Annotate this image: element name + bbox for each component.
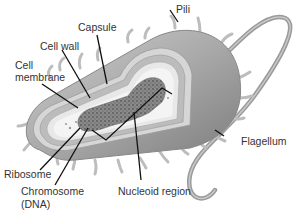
label-cell-wall: Cell wall [40, 40, 79, 52]
label-chromosome-line1: Chromosome [21, 185, 84, 197]
label-flagellum: Flagellum [241, 135, 287, 147]
label-pili: Pili [176, 3, 190, 15]
label-cell-membrane-line1: Cell [15, 59, 33, 71]
label-cell-membrane-line2: membrane [15, 71, 65, 83]
label-chromosome-line2: (DNA) [21, 198, 50, 210]
label-ribosome: Ribosome [4, 168, 51, 180]
prokaryotic-cell-diagram: Pili Capsule Cell wall Cell membrane Fla… [0, 0, 298, 219]
label-nucleoid-region: Nucleoid region [118, 185, 191, 197]
label-capsule: Capsule [78, 21, 117, 33]
